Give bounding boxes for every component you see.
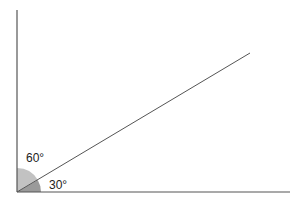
label-60-degrees: 60° [26, 151, 44, 165]
label-30-degrees: 30° [49, 178, 67, 192]
diagonal-line [17, 53, 250, 192]
angle-diagram: 60° 30° [0, 0, 303, 207]
